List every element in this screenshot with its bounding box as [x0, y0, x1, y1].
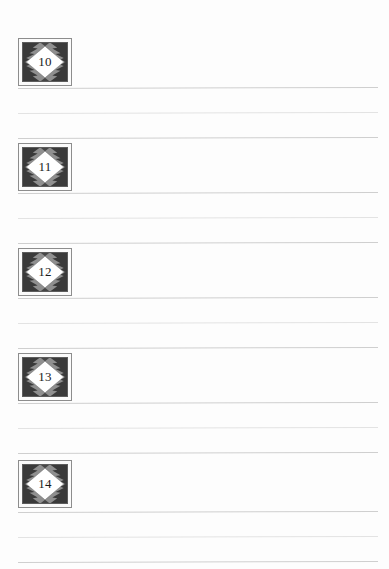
diamond-ornament-icon: 13: [22, 357, 68, 397]
ruled-line: [18, 536, 378, 538]
number-tile[interactable]: 14: [18, 460, 72, 508]
diamond-ornament-icon: 14: [22, 464, 68, 504]
ruled-line: [18, 297, 378, 299]
ruled-line: [18, 242, 378, 244]
ruled-line: [18, 347, 378, 349]
numbered-entry: 12: [18, 248, 72, 296]
diamond-ornament-icon: 11: [22, 147, 68, 187]
diamond-ornament-icon: 12: [22, 252, 68, 292]
ruled-line: [18, 137, 378, 139]
diamond-ornament-icon: 10: [22, 42, 68, 82]
ruled-line: [18, 511, 378, 513]
ruled-line: [18, 87, 378, 89]
entry-number-label: 10: [23, 43, 67, 81]
ruled-line: [18, 402, 378, 404]
entry-number-label: 12: [23, 253, 67, 291]
numbered-entry: 11: [18, 143, 72, 191]
numbered-entry: 10: [18, 38, 72, 86]
numbered-entry: 14: [18, 460, 72, 508]
number-tile[interactable]: 11: [18, 143, 72, 191]
ruled-line: [18, 452, 378, 454]
entry-number-label: 13: [23, 358, 67, 396]
number-tile[interactable]: 12: [18, 248, 72, 296]
number-tile[interactable]: 13: [18, 353, 72, 401]
entry-number-label: 11: [23, 148, 67, 186]
ruled-line: [18, 561, 378, 563]
ruled-line: [18, 427, 378, 429]
document-page: 10 11 12: [0, 0, 389, 569]
numbered-entry: 13: [18, 353, 72, 401]
ruled-line: [18, 112, 378, 114]
ruled-line: [18, 322, 378, 324]
ruled-line: [18, 217, 378, 219]
entry-number-label: 14: [23, 465, 67, 503]
number-tile[interactable]: 10: [18, 38, 72, 86]
ruled-line: [18, 192, 378, 194]
